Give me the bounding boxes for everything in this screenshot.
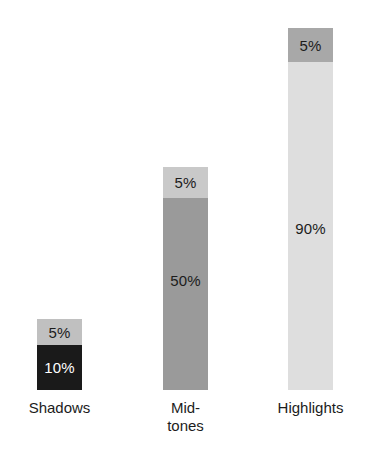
bar-segment-label-shadows-cap: 5%	[48, 325, 70, 340]
bar-segment-shadows-cap: 5%	[37, 319, 82, 345]
bar-group-midtones: 5% 50% Mid- tones	[163, 167, 208, 390]
category-label-midtones: Mid- tones	[167, 399, 204, 435]
bar-segment-label-midtones-body: 50%	[170, 273, 201, 288]
bar-highlights[interactable]: 5% 90%	[288, 28, 333, 390]
bar-group-highlights: 5% 90% Highlights	[288, 28, 333, 390]
category-label-highlights: Highlights	[278, 399, 344, 417]
bar-segment-shadows-body: 10%	[37, 345, 82, 390]
bar-segment-label-shadows-body: 10%	[44, 360, 75, 375]
bar-midtones[interactable]: 5% 50%	[163, 167, 208, 390]
bar-segment-midtones-cap: 5%	[163, 167, 208, 198]
bar-segment-label-highlights-body: 90%	[295, 221, 326, 236]
bar-segment-highlights-cap: 5%	[288, 28, 333, 62]
bar-shadows[interactable]: 5% 10%	[37, 319, 82, 390]
bar-segment-label-midtones-cap: 5%	[174, 175, 196, 190]
bar-segment-midtones-body: 50%	[163, 198, 208, 390]
category-label-shadows: Shadows	[29, 399, 91, 417]
bar-segment-highlights-body: 90%	[288, 62, 333, 390]
bar-group-shadows: 5% 10% Shadows	[37, 319, 82, 390]
bar-segment-label-highlights-cap: 5%	[299, 38, 321, 53]
stacked-bar-chart: 5% 10% Shadows 5% 50% Mid- tones 5% 90%	[0, 0, 370, 453]
